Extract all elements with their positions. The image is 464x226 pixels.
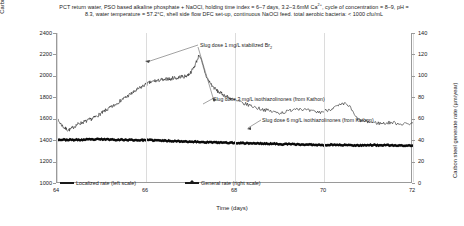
legend-swatch-line-icon — [60, 182, 74, 184]
y-left-tickmark-1400 — [53, 140, 56, 141]
y-left-tick-1600: 1600 — [30, 115, 52, 121]
y-right-tick-120: 120 — [418, 51, 440, 57]
y-right-tickmark-40 — [412, 140, 415, 141]
y-left-tick-2000: 2000 — [30, 72, 52, 78]
y-left-tickmark-2400 — [53, 33, 56, 34]
legend-item-general: General rate (right scale) — [185, 180, 261, 186]
y-right-tickmark-80 — [412, 97, 415, 98]
legend-label-localized: Localized rate (left scale) — [76, 180, 136, 186]
y-left-tick-1200: 1200 — [30, 158, 52, 164]
gridline-x-66 — [146, 33, 147, 182]
y-left-tickmark-1600 — [53, 119, 56, 120]
y-right-tickmark-20 — [412, 162, 415, 163]
y-right-tick-20: 20 — [418, 158, 440, 164]
y-left-tick-1800: 1800 — [30, 94, 52, 100]
legend-item-localized: Localized rate (left scale) — [60, 180, 136, 186]
y-axis-right-title: Carbon steel generate rate (µm/year) — [452, 28, 458, 178]
y-right-tickmark-120 — [412, 54, 415, 55]
plot-area — [56, 33, 412, 183]
legend-swatch-diamond-icon — [185, 182, 199, 184]
gridline-x-70 — [324, 33, 325, 182]
annotation-isothiazolinone-6mg: Slug dose 6 mg/L isothiazolinones (from … — [262, 117, 374, 123]
caption-line-1: PCT return water, PSO based alkaline pho… — [59, 4, 317, 10]
y-right-tickmark-60 — [412, 119, 415, 120]
y-left-tickmark-2000 — [53, 76, 56, 77]
gridline-x-72 — [413, 33, 414, 182]
y-right-tick-80: 80 — [418, 94, 440, 100]
y-left-tick-2200: 2200 — [30, 51, 52, 57]
y-right-tick-100: 100 — [418, 72, 440, 78]
y-right-tickmark-0 — [412, 183, 415, 184]
x-tick-72: 72 — [402, 187, 422, 193]
caption-line-2b: °C, shell side flow DFC set-up, continuo… — [157, 11, 304, 17]
y-left-tickmark-2200 — [53, 54, 56, 55]
y-right-tick-40: 40 — [418, 137, 440, 143]
annotation-isothiazolinone-3mg: Slug dose 3 mg/L isothiazolinones (from … — [213, 96, 325, 102]
annotation-bromine-dose-text: Slug dose 1 mg/L stabilized Br — [200, 42, 270, 48]
annotation-bromine-dose: Slug dose 1 mg/L stabilized Br2 — [200, 42, 272, 50]
x-tick-70: 70 — [313, 187, 333, 193]
y-right-tickmark-100 — [412, 76, 415, 77]
caption-line-1b: , cycle of — [322, 4, 344, 10]
chart-legend: Localized rate (left scale) General rate… — [60, 180, 310, 191]
gridline-x-68 — [235, 33, 236, 182]
y-left-tick-2400: 2400 — [30, 30, 52, 36]
y-left-tick-1000: 1000 — [30, 180, 52, 186]
annotation-bromine-dose-subscript: 2 — [270, 46, 272, 50]
y-right-tick-140: 140 — [418, 30, 440, 36]
y-left-tickmark-1800 — [53, 97, 56, 98]
y-left-tickmark-1000 — [53, 183, 56, 184]
figure-caption: PCT return water, PSO based alkaline pho… — [56, 2, 412, 18]
y-right-tick-60: 60 — [418, 115, 440, 121]
y-axis-left-title-text: Carbon steel localised rate [µm/ — [0, 0, 5, 14]
figure-root: PCT return water, PSO based alkaline pho… — [0, 0, 464, 226]
gridline-x-64 — [57, 33, 58, 182]
y-right-tickmark-140 — [412, 33, 415, 34]
y-right-tick-0: 0 — [418, 180, 440, 186]
caption-line-3: aerobic bacteria: < 1000 cfu/mL — [306, 11, 383, 17]
legend-label-general: General rate (right scale) — [201, 180, 261, 186]
y-axis-left-title: Carbon steel localised rate [µm/year] — [0, 0, 5, 38]
y-left-tickmark-1200 — [53, 162, 56, 163]
y-left-tick-1400: 1400 — [30, 137, 52, 143]
x-axis-title: Time (days) — [0, 205, 464, 211]
